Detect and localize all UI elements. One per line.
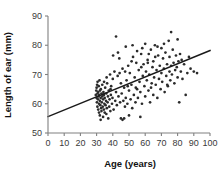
data-point bbox=[160, 72, 163, 75]
data-point bbox=[192, 70, 195, 73]
y-tick-label: 70 bbox=[32, 70, 42, 80]
data-point bbox=[178, 101, 181, 104]
data-point bbox=[99, 88, 102, 91]
data-point bbox=[100, 101, 103, 104]
data-point bbox=[165, 75, 168, 78]
data-point bbox=[104, 104, 107, 107]
y-axis-title: Length of ear (mm) bbox=[2, 32, 13, 118]
data-point bbox=[109, 73, 112, 76]
data-point bbox=[101, 83, 104, 86]
data-point bbox=[171, 73, 174, 76]
data-point bbox=[151, 66, 154, 69]
data-point bbox=[130, 60, 133, 63]
data-point bbox=[97, 85, 100, 88]
data-point bbox=[149, 101, 152, 104]
data-point bbox=[101, 105, 104, 108]
data-point bbox=[144, 95, 147, 98]
data-point bbox=[124, 105, 127, 108]
data-point bbox=[164, 51, 167, 54]
data-point bbox=[119, 101, 122, 104]
data-point bbox=[103, 80, 106, 83]
data-point bbox=[111, 97, 114, 100]
data-point bbox=[163, 42, 166, 45]
trend-line bbox=[48, 51, 210, 117]
data-point bbox=[140, 66, 143, 69]
data-point bbox=[159, 88, 162, 91]
data-point bbox=[161, 80, 164, 83]
data-point bbox=[116, 75, 119, 78]
data-point bbox=[110, 85, 113, 88]
data-point bbox=[186, 72, 189, 75]
data-point bbox=[108, 105, 111, 108]
data-point bbox=[104, 86, 107, 89]
data-point bbox=[172, 61, 175, 64]
data-point bbox=[150, 82, 153, 85]
data-point bbox=[124, 45, 127, 48]
data-point bbox=[141, 102, 144, 105]
y-tick-label: 60 bbox=[32, 99, 42, 109]
data-point bbox=[171, 48, 174, 51]
data-point bbox=[128, 114, 131, 117]
data-point bbox=[137, 97, 140, 100]
data-point bbox=[137, 69, 140, 72]
data-point bbox=[155, 69, 158, 72]
data-point bbox=[126, 102, 129, 105]
data-point bbox=[112, 54, 115, 57]
data-point bbox=[153, 76, 156, 79]
x-tick-label: 60 bbox=[140, 138, 150, 148]
data-point bbox=[133, 76, 136, 79]
data-point bbox=[109, 110, 112, 113]
x-axis-title: Age (years) bbox=[104, 158, 156, 169]
data-point bbox=[116, 104, 119, 107]
data-point bbox=[106, 101, 109, 104]
data-point bbox=[170, 31, 173, 34]
data-point bbox=[107, 117, 110, 120]
data-point bbox=[136, 50, 139, 53]
data-point bbox=[99, 118, 102, 121]
data-point bbox=[175, 54, 178, 57]
data-point bbox=[150, 48, 153, 51]
data-point bbox=[117, 95, 120, 98]
data-point bbox=[145, 79, 148, 82]
y-tick-label: 90 bbox=[32, 11, 42, 21]
data-point bbox=[114, 99, 117, 102]
data-point bbox=[128, 72, 131, 75]
data-point bbox=[122, 99, 125, 102]
data-point bbox=[108, 98, 111, 101]
scatter-chart-figure: 50607080900102030405060708090100 Age (ye… bbox=[0, 0, 223, 172]
tick-labels-group: 50607080900102030405060708090100 bbox=[32, 11, 218, 148]
data-point bbox=[146, 59, 149, 62]
data-point bbox=[105, 107, 108, 110]
data-point bbox=[179, 70, 182, 73]
data-point bbox=[130, 83, 133, 86]
data-point bbox=[138, 80, 141, 83]
data-point bbox=[110, 94, 113, 97]
data-point bbox=[167, 40, 170, 43]
data-point bbox=[156, 45, 159, 48]
data-point bbox=[120, 92, 123, 95]
data-point bbox=[181, 78, 184, 81]
data-point bbox=[103, 97, 106, 100]
data-point bbox=[154, 56, 157, 59]
x-tick-label: 0 bbox=[45, 138, 50, 148]
data-point bbox=[147, 89, 150, 92]
data-point bbox=[124, 70, 127, 73]
data-point bbox=[131, 44, 134, 47]
x-tick-label: 80 bbox=[173, 138, 183, 148]
x-tick-label: 30 bbox=[92, 138, 102, 148]
data-point bbox=[117, 51, 120, 54]
data-point bbox=[134, 101, 137, 104]
data-point bbox=[143, 85, 146, 88]
data-point bbox=[139, 116, 142, 119]
data-point bbox=[168, 56, 171, 59]
plot-area bbox=[48, 31, 210, 121]
data-point bbox=[142, 63, 145, 66]
data-point bbox=[118, 72, 121, 75]
x-tick-label: 70 bbox=[156, 138, 166, 148]
data-point bbox=[174, 69, 177, 72]
data-point bbox=[158, 78, 161, 81]
data-point bbox=[168, 70, 171, 73]
data-point bbox=[125, 79, 128, 82]
data-point bbox=[176, 38, 179, 41]
data-point bbox=[127, 64, 130, 67]
